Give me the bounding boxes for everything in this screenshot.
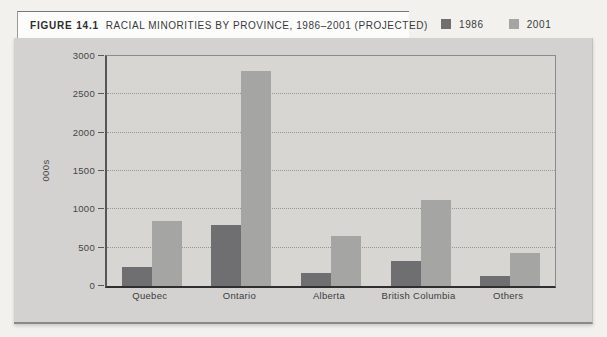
y-tick-mark-500 [98,247,104,248]
legend-item-1986: 1986 [441,19,484,30]
figure-title-bar: FIGURE 14.1 RACIAL MINORITIES BY PROVINC… [17,11,409,38]
figure-title-text: RACIAL MINORITIES BY PROVINCE, 1986–2001… [106,20,428,31]
y-tick-mark-1500 [98,170,104,171]
y-axis-title: 000s [40,154,51,188]
y-tick-mark-1000 [98,208,104,209]
bar-1986-quebec [122,267,152,286]
x-label-british-columbia: British Columbia [374,290,464,301]
bar-2001-british-columbia [421,200,451,286]
bar-1986-alberta [301,273,331,286]
x-label-others: Others [463,290,553,301]
x-label-quebec: Quebec [105,290,195,301]
chart-legend: 1986 2001 [441,11,551,37]
legend-item-2001: 2001 [509,19,552,30]
y-tick-label-2500: 2500 [63,88,95,99]
bar-1986-ontario [211,225,241,286]
y-tick-mark-0 [98,285,104,286]
bar-2001-ontario [241,71,271,286]
y-tick-label-1500: 1500 [63,165,95,176]
y-tick-mark-2500 [98,93,104,94]
y-tick-label-2000: 2000 [63,127,95,138]
figure-page: FIGURE 14.1 RACIAL MINORITIES BY PROVINC… [0,0,607,337]
figure-number-label: FIGURE 14.1 [30,20,99,31]
legend-swatch-2001-icon [509,19,519,29]
legend-swatch-1986-icon [441,19,451,29]
bar-2001-alberta [331,236,361,286]
legend-label-1986: 1986 [459,19,484,30]
bar-2001-others [510,253,540,286]
bar-2001-quebec [152,221,182,286]
y-tick-label-1000: 1000 [63,203,95,214]
gridline-2500 [107,93,555,94]
gridline-1500 [107,170,555,171]
y-tick-label-3000: 3000 [63,50,95,61]
bar-1986-others [480,276,510,286]
gridline-1000 [107,208,555,209]
y-tick-mark-3000 [98,55,104,56]
x-label-alberta: Alberta [284,290,374,301]
legend-label-2001: 2001 [527,19,552,30]
x-label-ontario: Ontario [195,290,285,301]
bar-1986-british-columbia [391,261,421,286]
plot-area [105,55,556,288]
y-tick-label-0: 0 [63,280,95,291]
y-tick-mark-2000 [98,132,104,133]
gridline-2000 [107,132,555,133]
y-tick-label-500: 500 [63,242,95,253]
